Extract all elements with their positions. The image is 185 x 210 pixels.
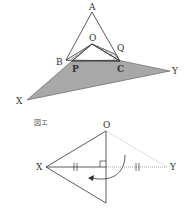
label-b: B xyxy=(56,57,63,67)
figure-top: A O B Q P C Y X xyxy=(16,2,179,106)
right-angle-mark xyxy=(100,161,106,167)
label-q: Q xyxy=(117,43,124,53)
arrowhead-icon xyxy=(88,175,94,181)
label-p: P xyxy=(72,64,79,74)
segment-ox xyxy=(46,131,106,167)
label-c: C xyxy=(117,64,124,74)
segment-op xyxy=(72,44,92,61)
shaded-triangle-xpy xyxy=(27,60,170,100)
label-o-bottom: O xyxy=(103,120,110,130)
segment-oy-dotted xyxy=(106,131,167,167)
label-o: O xyxy=(89,33,96,43)
segment-x-bottom xyxy=(46,167,106,203)
figure-caption: 図エ xyxy=(34,119,48,127)
figure-bottom: 図エ O X Y xyxy=(34,119,177,203)
geometry-figures: A O B Q P C Y X 図エ O X Y xyxy=(0,0,185,210)
segment-oc xyxy=(92,44,120,61)
label-y: Y xyxy=(171,66,179,76)
label-x: X xyxy=(16,96,23,106)
label-a: A xyxy=(88,2,96,12)
label-x-bottom: X xyxy=(36,162,43,172)
label-y-bottom: Y xyxy=(169,162,177,172)
